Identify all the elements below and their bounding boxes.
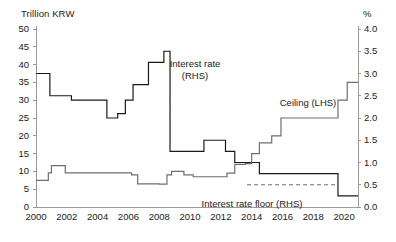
axis-lines [33,26,361,207]
annotation-interest-rate-floor: Interest rate floor (RHS) [192,198,312,210]
annotation-interest-rate-line2: (RHS) [182,70,208,81]
annotation-ceiling: Ceiling (LHS) [268,97,348,109]
annotation-interest-rate-line1: Interest rate [170,58,221,69]
annotation-interest-rate: Interest rate (RHS) [159,58,231,81]
chart-container: Trillion KRW % 051015202530354045500.00.… [0,0,396,242]
